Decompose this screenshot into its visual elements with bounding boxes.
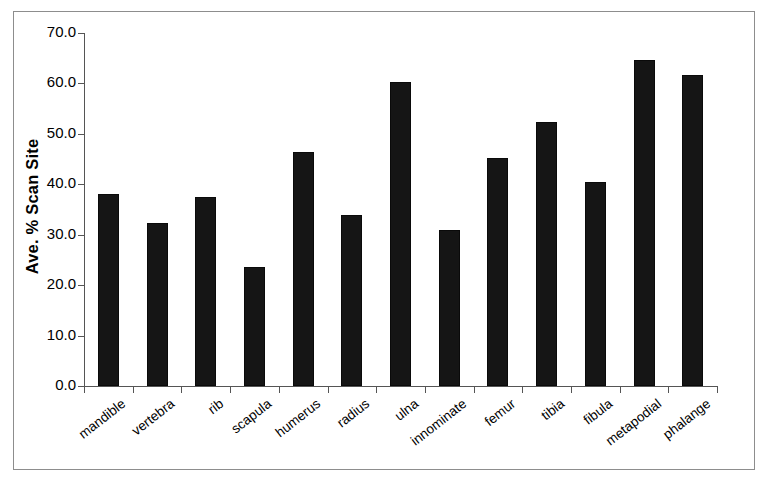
y-tick-label: 40.0 — [47, 174, 76, 191]
y-tick-mark — [78, 83, 85, 84]
x-tick-label-text: vertebra — [129, 396, 177, 438]
x-tick-label-text: mandible — [76, 396, 128, 442]
bar — [682, 75, 703, 386]
y-axis-title: Ave. % Scan Site — [23, 97, 42, 317]
x-tick-label: fibula — [606, 376, 641, 408]
bar — [195, 197, 216, 386]
bar — [536, 122, 557, 386]
y-tick-label: 50.0 — [47, 124, 76, 141]
x-tick-label-text: femur — [482, 396, 518, 429]
bar — [439, 230, 460, 386]
bar — [634, 60, 655, 386]
y-axis-line — [84, 33, 85, 386]
y-tick-label: 20.0 — [47, 275, 76, 292]
bar — [341, 215, 362, 386]
y-tick-mark — [78, 285, 85, 286]
x-tick-label-text: tibia — [538, 396, 567, 423]
bar-chart: Ave. % Scan Site 70.060.050.040.030.020.… — [0, 0, 760, 478]
y-tick-label: 0.0 — [55, 376, 76, 393]
bar — [390, 82, 411, 386]
bar — [487, 158, 508, 386]
x-tick-label-text: scapula — [229, 396, 275, 436]
x-tick-label-text: ulna — [391, 396, 420, 424]
y-tick-mark — [78, 336, 85, 337]
y-tick-label: 30.0 — [47, 225, 76, 242]
bar — [98, 194, 119, 386]
y-tick-label: 10.0 — [47, 326, 76, 343]
y-tick-mark — [78, 33, 85, 34]
x-tick-label: tibia — [558, 381, 587, 408]
x-tick-label-text: rib — [205, 396, 226, 417]
bar — [244, 267, 265, 386]
x-tick-label: ulna — [412, 380, 441, 408]
x-tick-label: rib — [217, 387, 238, 408]
y-tick-mark — [78, 235, 85, 236]
y-tick-label: 70.0 — [47, 23, 76, 40]
y-tick-mark — [78, 134, 85, 135]
y-tick-label: 60.0 — [47, 73, 76, 90]
bar — [293, 152, 314, 386]
x-tick-mark — [84, 386, 85, 393]
y-tick-mark — [78, 184, 85, 185]
bar — [585, 182, 606, 386]
x-tick-label: radius — [363, 373, 401, 407]
x-tick-label-text: fibula — [581, 396, 616, 428]
bar — [147, 223, 168, 386]
x-tick-label: femur — [509, 375, 545, 408]
x-tick-label-text: radius — [334, 396, 372, 430]
